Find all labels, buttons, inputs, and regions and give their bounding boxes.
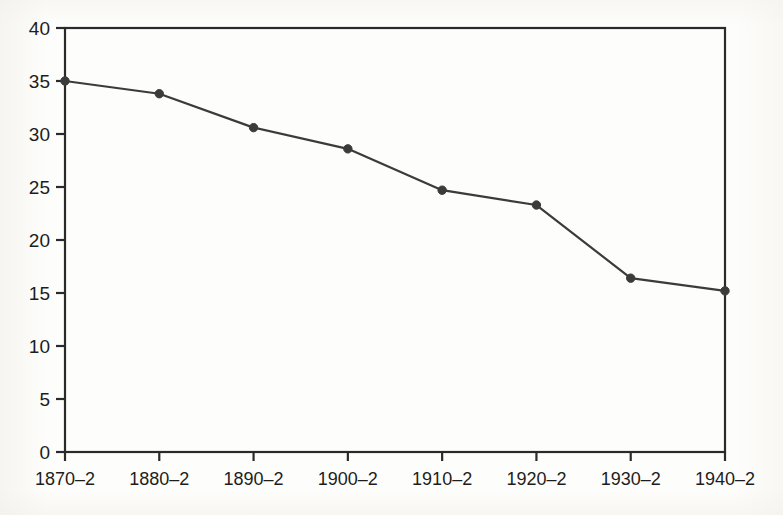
x-tick-label-1920–2: 1920–2 (506, 469, 566, 489)
x-tick-label-1890–2: 1890–2 (224, 469, 284, 489)
data-point-1900–2 (344, 145, 352, 153)
x-tick-label-1880–2: 1880–2 (129, 469, 189, 489)
y-tick-label-35: 35 (29, 71, 50, 92)
y-tick-label-30: 30 (29, 124, 50, 145)
x-tick-label-1900–2: 1900–2 (318, 469, 378, 489)
y-tick-label-5: 5 (39, 389, 50, 410)
data-point-1890–2 (249, 123, 257, 131)
plot-border (65, 28, 725, 452)
line-chart: 0510152025303540 1870–21880–21890–21900–… (0, 0, 783, 515)
x-tick-label-1930–2: 1930–2 (601, 469, 661, 489)
x-tick-label-1940–2: 1940–2 (695, 469, 755, 489)
chart-page: 0510152025303540 1870–21880–21890–21900–… (0, 0, 783, 515)
y-axis-ticks (56, 28, 65, 452)
data-line-series-1 (65, 81, 725, 291)
data-point-1880–2 (155, 90, 163, 98)
y-tick-label-15: 15 (29, 283, 50, 304)
data-point-1930–2 (627, 274, 635, 282)
y-tick-label-0: 0 (39, 442, 50, 463)
data-point-1870–2 (61, 77, 69, 85)
data-point-1910–2 (438, 186, 446, 194)
data-point-1920–2 (532, 201, 540, 209)
y-tick-label-40: 40 (29, 18, 50, 39)
x-axis-ticks (65, 452, 725, 461)
plot-frame (65, 28, 725, 452)
data-point-1940–2 (721, 287, 729, 295)
y-tick-label-20: 20 (29, 230, 50, 251)
x-axis-tick-labels: 1870–21880–21890–21900–21910–21920–21930… (35, 469, 755, 489)
y-tick-label-10: 10 (29, 336, 50, 357)
y-tick-label-25: 25 (29, 177, 50, 198)
data-point-markers (61, 77, 729, 295)
x-tick-label-1910–2: 1910–2 (412, 469, 472, 489)
x-tick-label-1870–2: 1870–2 (35, 469, 95, 489)
y-axis-tick-labels: 0510152025303540 (29, 18, 50, 463)
